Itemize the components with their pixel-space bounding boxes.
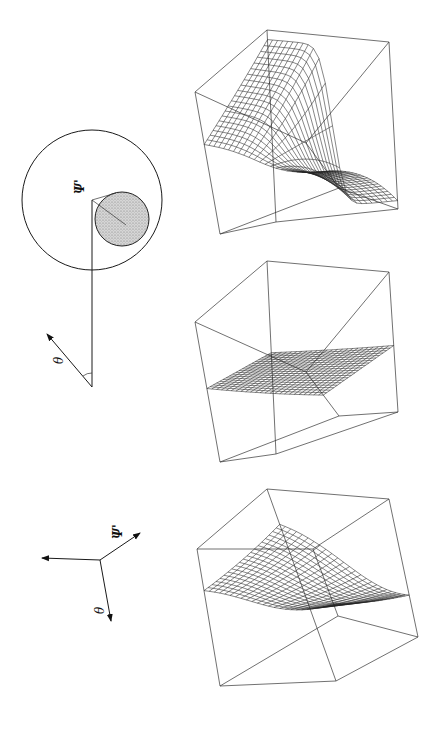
theta-axis-label: θ: [93, 606, 107, 614]
theta-arc: [83, 373, 92, 376]
bounding-cube: [195, 261, 398, 462]
surface-plot-bottom: [197, 489, 418, 686]
circle-diagram: Ψ' θ: [22, 130, 162, 387]
figure-canvas: Ψ' θ Ψ' θ: [0, 0, 442, 729]
surface-plot-top: [195, 30, 398, 234]
wireframe-surface: [204, 524, 409, 610]
vertical-axis-arrow: [42, 558, 100, 560]
psi-label: Ψ': [73, 179, 87, 194]
bounding-cube: [197, 489, 418, 686]
axes-diagram: Ψ' θ: [42, 524, 140, 621]
psi-axis-label: Ψ': [111, 524, 125, 539]
surface-plot-middle: [195, 261, 398, 462]
shaded-circle: [95, 192, 149, 246]
wireframe-surface: [207, 346, 394, 396]
wireframe-surface: [204, 40, 397, 204]
theta-label: θ: [52, 356, 66, 364]
